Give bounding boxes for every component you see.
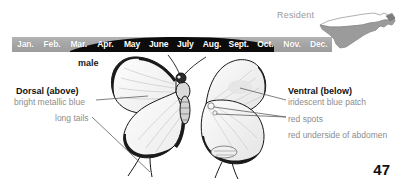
leader-ventral-blue-patch: [240, 88, 286, 100]
ventral-specimen: [201, 60, 266, 179]
antenna-left: [168, 55, 180, 75]
month-label-dec: Dec.: [305, 37, 332, 52]
month-label-mar: Mar.: [65, 37, 92, 52]
page-number: 47: [373, 161, 390, 178]
dorsal-hindwing-margin: [124, 134, 174, 158]
month-label-row: Jan. Feb. Mar. Apr. May June July Aug. S…: [12, 37, 332, 52]
ventral-hindwing-margin: [202, 136, 260, 164]
ventral-blue-patch: [228, 80, 252, 94]
dorsal-hindwing-outer: [174, 106, 185, 148]
dorsal-abdomen: [180, 96, 190, 124]
specimen-sex-label: male: [78, 58, 99, 68]
dorsal-head: [176, 73, 186, 83]
leader-ventral-red-spots-a: [214, 107, 286, 117]
ventral-tail-short: [215, 162, 222, 178]
dorsal-specimen: [111, 55, 206, 177]
ventral-hindwing-veins: [207, 104, 257, 154]
leader-long-tails: [92, 117, 150, 172]
ventral-forewing-margin: [258, 66, 266, 98]
leader-ventral-red-spots-b: [216, 114, 286, 117]
dorsal-thorax: [176, 82, 190, 100]
month-label-aug: Aug.: [199, 37, 226, 52]
ventral-heading: Ventral (below): [288, 86, 352, 96]
dorsal-eye: [177, 75, 180, 78]
residency-status-label: Resident: [277, 10, 314, 20]
dorsal-forewing-veins: [119, 68, 175, 99]
dorsal-forewing-costa: [138, 57, 176, 82]
ventral-red-spot-lower: [213, 111, 217, 115]
antenna-right: [184, 57, 206, 75]
month-label-oct: Oct.: [252, 37, 279, 52]
dorsal-heading: Dorsal (above): [16, 86, 79, 96]
ventral-abdomen-underside: [211, 146, 237, 158]
field-guide-page: Resident Jan. Feb. Mar. Apr. May June Ju…: [0, 0, 398, 184]
month-label-nov: Nov.: [279, 37, 306, 52]
month-label-may: May: [119, 37, 146, 52]
dorsal-tail-long: [128, 157, 140, 176]
dorsal-forewing: [111, 57, 176, 113]
dorsal-hindwing: [124, 92, 183, 158]
dorsal-tail-short: [150, 158, 152, 177]
dorsal-hindwing-veins: [138, 100, 181, 152]
ventral-forewing: [206, 60, 266, 115]
ventral-red-spots-label: red spots: [288, 114, 323, 125]
long-tails-label: long tails: [55, 113, 89, 124]
leader-dorsal-detail: [96, 96, 148, 100]
ventral-abdomen-label: red underside of abdomen: [288, 130, 388, 141]
month-label-feb: Feb.: [39, 37, 66, 52]
ventral-tail-long: [232, 163, 238, 179]
month-label-apr: Apr.: [92, 37, 119, 52]
flight-period-bar: Jan. Feb. Mar. Apr. May June July Aug. S…: [12, 37, 332, 52]
month-label-june: June: [145, 37, 172, 52]
ventral-blue-patch-label: iridescent blue patch: [288, 97, 366, 108]
ventral-forewing-veins: [209, 70, 262, 114]
month-label-sept: Sept.: [225, 37, 252, 52]
dorsal-forewing-margin: [111, 57, 139, 98]
month-label-july: July: [172, 37, 199, 52]
dorsal-detail-label: bright metallic blue: [14, 97, 85, 108]
dorsal-abdomen-segments: [180, 102, 190, 120]
ventral-red-spot-upper: [208, 103, 214, 109]
month-label-jan: Jan.: [12, 37, 39, 52]
ventral-hindwing: [201, 100, 264, 164]
leader-lines: [92, 88, 286, 172]
